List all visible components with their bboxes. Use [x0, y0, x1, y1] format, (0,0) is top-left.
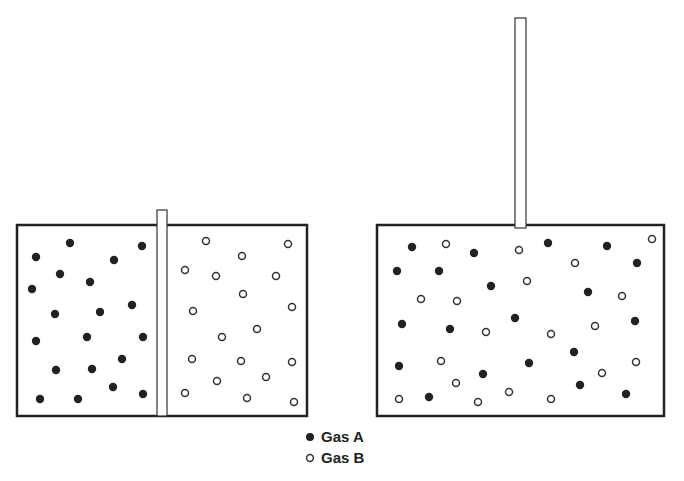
gas-b-particle [240, 291, 247, 298]
gas-a-particle [544, 239, 552, 247]
gas-b-particle [182, 267, 189, 274]
gas-a-particle [603, 242, 611, 250]
gas-b-particle [483, 329, 490, 336]
gas-b-particle [506, 389, 513, 396]
gas-a-particle [479, 370, 487, 378]
gas-b-particle [239, 253, 246, 260]
panel-after-mixing [377, 18, 664, 416]
gas-b-particle [273, 273, 280, 280]
gas-b-particle [285, 241, 292, 248]
gas-b-particle [453, 380, 460, 387]
gas-b-particle [649, 236, 656, 243]
gas-a-particle [51, 310, 59, 318]
gas-a-particle [470, 249, 478, 257]
partition-lifted [515, 18, 526, 228]
gas-b-particle [438, 358, 445, 365]
panel-before-mixing [17, 210, 307, 416]
gas-b-particle [548, 396, 555, 403]
gas-b-particle [289, 359, 296, 366]
gas-b-particle [203, 238, 210, 245]
gas-b-particle [263, 374, 270, 381]
gas-a-particle [36, 395, 44, 403]
gas-b-particle [244, 395, 251, 402]
gas-a-particle [435, 267, 443, 275]
gas-a-particle [576, 381, 584, 389]
gas-a-particle [88, 365, 96, 373]
gas-b-particle [599, 370, 606, 377]
gas-b-particle [213, 273, 220, 280]
gas-a-particle [139, 333, 147, 341]
partition-inserted [157, 210, 167, 416]
gas-a-particle [56, 270, 64, 278]
gas-a-particle [52, 366, 60, 374]
gas-a-particle [622, 390, 630, 398]
gas-a-particle [32, 253, 40, 261]
gas-a-particle [138, 242, 146, 250]
gas-b-particle [291, 399, 298, 406]
gas-a-particle [28, 285, 36, 293]
gas-b-particle [219, 334, 226, 341]
gas-b-particle [443, 241, 450, 248]
legend-marker-gas-b [307, 455, 314, 462]
gas-a-particle [525, 359, 533, 367]
gas-a-particle [109, 383, 117, 391]
gas-b-particle [454, 298, 461, 305]
gas-diffusion-diagram: Gas A Gas B [0, 0, 684, 481]
gas-a-particle [408, 243, 416, 251]
gas-a-particle [393, 267, 401, 275]
gas-a-particle [110, 256, 118, 264]
gas-b-particle [475, 399, 482, 406]
gas-b-particle [418, 296, 425, 303]
gas-b-particle [592, 323, 599, 330]
gas-a-particle [487, 282, 495, 290]
gas-a-particle [570, 348, 578, 356]
gas-b-particle [189, 356, 196, 363]
gas-a-particle [66, 239, 74, 247]
gas-a-particle [425, 393, 433, 401]
gas-a-particle [584, 288, 592, 296]
gas-b-particle [619, 293, 626, 300]
gas-b-particle [254, 326, 261, 333]
gas-a-particle [398, 320, 406, 328]
gas-a-particle [74, 395, 82, 403]
legend: Gas A Gas B [306, 428, 365, 466]
gas-b-particle [182, 390, 189, 397]
gas-b-particle [238, 358, 245, 365]
gas-a-particle [96, 308, 104, 316]
gas-a-particle [139, 390, 147, 398]
gas-a-particle [631, 317, 639, 325]
gas-a-particle [446, 325, 454, 333]
gas-a-particle [83, 333, 91, 341]
gas-b-particle [289, 304, 296, 311]
gas-b-particle [214, 378, 221, 385]
gas-a-particle [395, 362, 403, 370]
gas-a-particle [86, 278, 94, 286]
gas-b-particle [516, 247, 523, 254]
legend-marker-gas-a [306, 433, 314, 441]
gas-b-particle [548, 331, 555, 338]
gas-a-particle [32, 337, 40, 345]
legend-label-gas-b: Gas B [321, 449, 365, 466]
gas-a-particle [633, 259, 641, 267]
gas-b-particle [396, 396, 403, 403]
gas-a-particle [128, 301, 136, 309]
gas-b-particle [572, 260, 579, 267]
gas-b-particle [190, 308, 197, 315]
gas-a-particle [118, 355, 126, 363]
gas-b-particle [524, 278, 531, 285]
gas-b-particle [633, 359, 640, 366]
gas-a-particle [511, 314, 519, 322]
legend-label-gas-a: Gas A [321, 428, 364, 445]
